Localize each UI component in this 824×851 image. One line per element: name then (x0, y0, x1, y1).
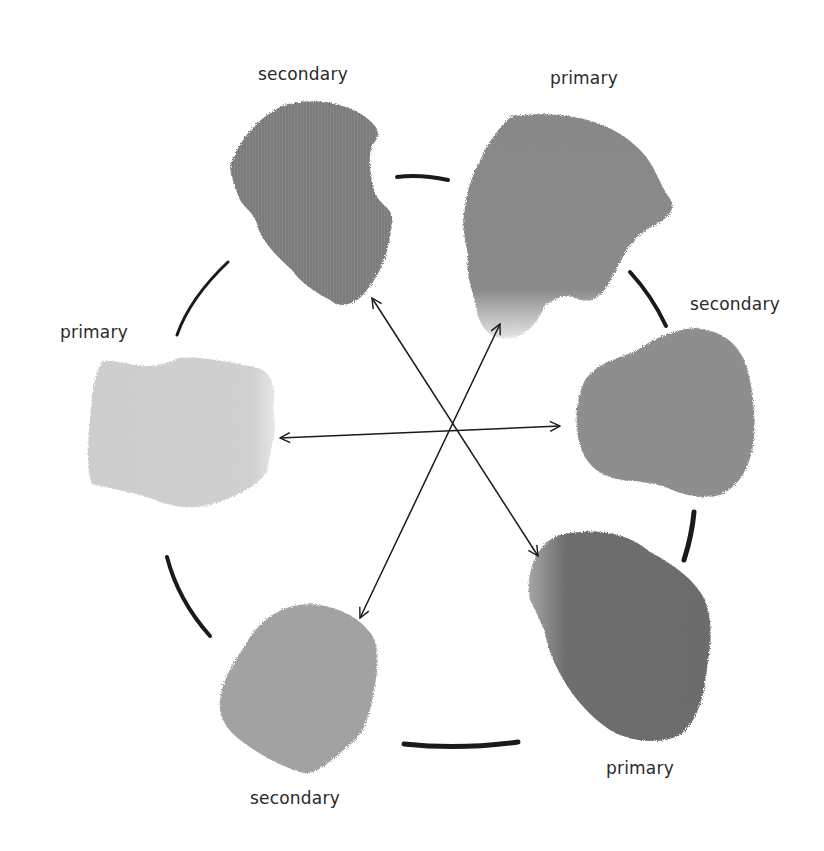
label-bottom-left: secondary (250, 788, 340, 808)
label-top-right: primary (550, 68, 618, 88)
arrow-topright-bottomleft (360, 324, 500, 618)
diagram-canvas (0, 0, 824, 851)
stroke-upper-left (177, 262, 228, 335)
color-wheel-diagram: secondary primary secondary primary prim… (0, 0, 824, 851)
swatch-top-left-secondary (230, 101, 392, 304)
swatch-bottom-right-primary (528, 531, 710, 741)
label-top-left: secondary (258, 64, 348, 84)
swatch-right-upper-secondary (577, 328, 755, 497)
stroke-top (397, 176, 448, 180)
stroke-upper-right (630, 272, 666, 326)
swatch-top-right-primary (463, 114, 672, 338)
complementary-arrows (280, 298, 560, 618)
stroke-bottom (404, 742, 518, 747)
label-right-upper: secondary (690, 294, 780, 314)
label-left: primary (60, 322, 128, 342)
stroke-right (684, 512, 694, 560)
swatch-bottom-left-secondary (220, 604, 378, 773)
stroke-lower-left (167, 557, 210, 636)
arrow-left-right (280, 426, 560, 438)
swatch-left-primary (88, 358, 275, 508)
label-bottom-right: primary (606, 758, 674, 778)
